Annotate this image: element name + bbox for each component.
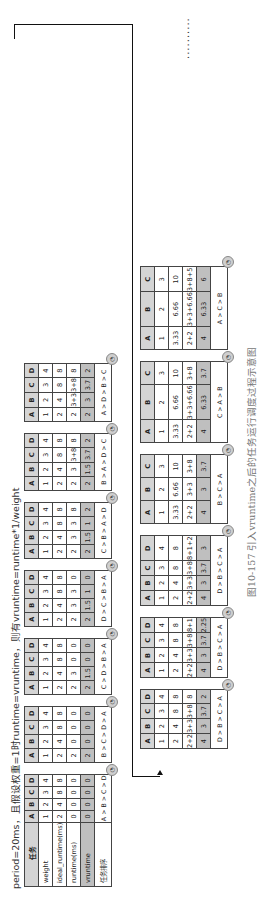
weight-cell: 3	[155, 455, 169, 478]
vruntime-cell: 2	[81, 680, 95, 694]
task-order: D > C > B > A	[95, 570, 112, 626]
cols-cell: B	[25, 666, 39, 680]
weight-cell: 1	[39, 680, 53, 694]
state-block: ABC1233.336.66102+23+3+6.663+8+546.336A …	[140, 266, 228, 350]
runtime-cell: 0	[67, 638, 81, 652]
cols-cell: D	[25, 638, 39, 652]
weight-cell: 3	[39, 516, 53, 530]
runtime-cell: 3+8	[67, 378, 81, 393]
state-block: ABC1233.336.66102+23+3+6.663+846.333.7C …	[140, 361, 228, 443]
runtime-cell: 2+2	[183, 590, 197, 605]
runtime-cell: 2	[67, 544, 81, 558]
cols-cell: B	[141, 478, 155, 501]
ideal-cell: 10	[169, 267, 183, 292]
runtime-cell: 2	[67, 407, 81, 421]
cell: 0	[67, 774, 81, 786]
schedule-row-1: 任务 A B C D weight 1 2 3 4 ideal_runtime(…	[24, 352, 112, 887]
cell: 0	[81, 786, 95, 798]
cols-cell: C	[25, 378, 39, 393]
connector-return	[132, 25, 133, 777]
ideal-cell: 2	[169, 734, 183, 749]
clock-icon: ◔	[222, 351, 234, 363]
cols-cell: B	[25, 734, 39, 748]
runtime-label: runtime(ms)	[67, 822, 81, 886]
weight-cell: 2	[155, 575, 169, 590]
ideal-cell: 8	[169, 617, 183, 633]
cell: 1	[39, 810, 53, 822]
weight-cell: 4	[39, 433, 53, 447]
ideal-cell: 2	[53, 544, 67, 558]
cols-cell: A	[141, 420, 155, 443]
weight-cell: 2	[155, 292, 169, 327]
ideal-cell: 4	[53, 392, 67, 407]
state-table: ABCD123424882+23+33+88+1+2433.73D > B > …	[140, 535, 228, 605]
cols-cell: A	[25, 612, 39, 626]
state-table: ABCD12342488233821.512C > B > A > D	[24, 502, 112, 559]
cell: 0	[81, 810, 95, 822]
diagram-stage: period=20ms，且假设权重=1时runtime=vruntime，则有v…	[0, 0, 262, 897]
vruntime-cell: 2	[81, 407, 95, 421]
col-b: B	[25, 798, 39, 810]
clock-icon: ◔	[222, 444, 234, 456]
state-block: ABCD1234248820002000B > C > D > A◔	[24, 706, 112, 763]
weight-cell: 3	[155, 704, 169, 719]
vruntime-cell: 6.33	[197, 385, 211, 420]
vruntime-cell: 4	[197, 327, 211, 350]
state-table: ABCD123424882+23+33+88433.72D > B > C > …	[140, 689, 228, 749]
vruntime-cell: 4	[197, 501, 211, 524]
vruntime-cell: 4	[197, 663, 211, 678]
vruntime-cell: 2	[81, 544, 95, 558]
vruntime-cell: 3	[197, 719, 211, 734]
weight-cell: 1	[39, 544, 53, 558]
cell: 3	[39, 786, 53, 798]
weight-cell: 4	[155, 690, 169, 704]
cell: 2	[39, 798, 53, 810]
weight-cell: 3	[155, 633, 169, 648]
vruntime-cell: 3	[197, 478, 211, 501]
runtime-cell: 8	[183, 690, 197, 704]
vruntime-cell: 0	[81, 706, 95, 720]
cols-cell: A	[141, 663, 155, 678]
state-block: ABCD123424882+23+33+88433.72D > B > C > …	[140, 689, 228, 749]
runtime-cell: 8	[67, 364, 81, 378]
runtime-cell: 2+2	[183, 327, 197, 350]
ideal-cell: 8	[53, 364, 67, 378]
cols-cell: B	[141, 385, 155, 420]
cols-cell: C	[141, 704, 155, 719]
schedule-row-2: ABCD123424882+23+33+88433.72D > B > C > …	[140, 255, 228, 749]
ideal-cell: 8	[53, 502, 67, 516]
runtime-cell: 3+8	[183, 362, 197, 385]
runtime-cell: 2+2	[183, 734, 197, 749]
cols-cell: C	[25, 447, 39, 462]
state-table: ABCD12342488233+8821.53.72B > A > D > C	[24, 433, 112, 491]
state-block: ABCD12342488233021.510D > C > B > A◔	[24, 570, 112, 627]
state-table: ABCD123424882+23+33+88+1433.72.25D > B >…	[140, 617, 228, 678]
vruntime-cell: 3.7	[81, 447, 95, 462]
col-d: D	[25, 774, 39, 786]
vruntime-cell: 3.7	[197, 561, 211, 576]
ideal-cell: 4	[53, 598, 67, 612]
cols-cell: B	[141, 648, 155, 663]
vruntime-cell: 2	[81, 502, 95, 516]
cols-cell: D	[25, 706, 39, 720]
weight-cell: 4	[155, 617, 169, 633]
cell: 4	[53, 798, 67, 810]
cols-cell: C	[141, 362, 155, 385]
state-block: ABCD12342488230021.500C > D > B > A◔	[24, 638, 112, 695]
vruntime-cell: 2	[81, 476, 95, 490]
ideal-cell: 8	[53, 720, 67, 734]
ideal-cell: 8	[53, 516, 67, 530]
initial-state-table: 任务 A B C D weight 1 2 3 4 ideal_runtime(…	[24, 774, 112, 887]
vruntime-cell: 4	[197, 420, 211, 443]
weight-cell: 1	[155, 590, 169, 605]
weight-cell: 4	[39, 706, 53, 720]
cols-cell: C	[141, 633, 155, 648]
vruntime-cell: 3	[197, 575, 211, 590]
vruntime-cell: 3	[197, 648, 211, 663]
runtime-cell: 3+8+5	[183, 267, 197, 292]
ideal-cell: 4	[169, 648, 183, 663]
cols-cell: B	[25, 530, 39, 544]
cols-cell: D	[25, 364, 39, 378]
clock-icon: ◔	[106, 560, 118, 572]
state-block: ABC1233.336.66102+23+33+8433.7B > C > A◔	[140, 454, 228, 524]
